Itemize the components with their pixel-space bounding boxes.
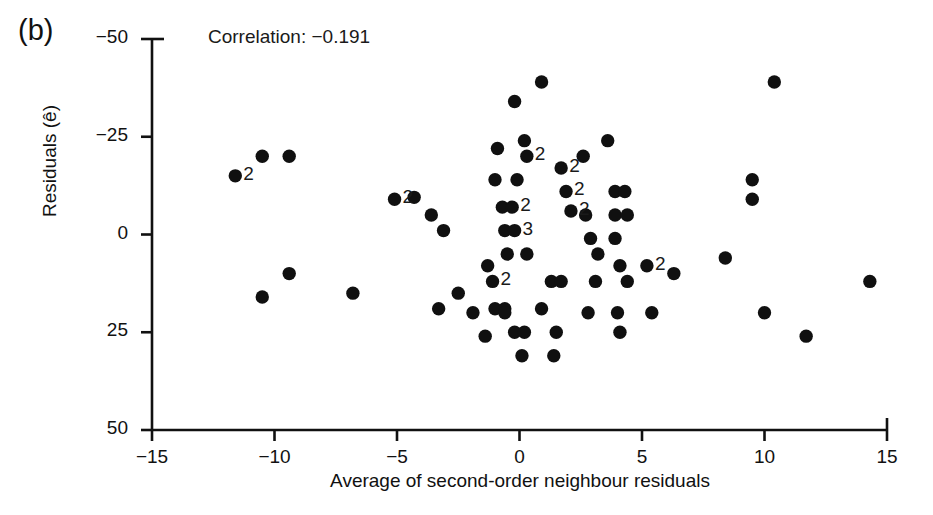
point-count-label: 2 xyxy=(535,143,546,165)
y-tick-label: −25 xyxy=(68,124,128,146)
y-tick-label: 25 xyxy=(68,319,128,341)
y-tick-label: 0 xyxy=(68,222,128,244)
data-point xyxy=(535,75,548,88)
point-count-label: 2 xyxy=(403,186,414,208)
data-point xyxy=(581,306,594,319)
data-point xyxy=(501,247,514,260)
data-point xyxy=(505,200,518,213)
data-points xyxy=(229,75,877,362)
data-point xyxy=(613,326,626,339)
data-point xyxy=(554,275,567,288)
x-tick-label: −15 xyxy=(122,446,182,468)
data-point xyxy=(618,185,631,198)
data-point xyxy=(640,259,653,272)
data-point xyxy=(601,134,614,147)
data-point xyxy=(498,306,511,319)
data-point xyxy=(486,275,499,288)
point-count-label: 2 xyxy=(501,268,512,290)
data-point xyxy=(621,275,634,288)
data-point xyxy=(564,204,577,217)
data-point xyxy=(799,329,812,342)
point-count-label: 2 xyxy=(655,253,666,275)
data-point xyxy=(613,259,626,272)
data-point xyxy=(515,349,528,362)
scatter-plot-figure: (b) Correlation: −0.191 Residuals (ê) Av… xyxy=(0,0,933,515)
data-point xyxy=(283,150,296,163)
data-point xyxy=(518,134,531,147)
data-point xyxy=(667,267,680,280)
data-point xyxy=(508,224,521,237)
data-point xyxy=(559,185,572,198)
x-tick-label: 5 xyxy=(612,446,672,468)
data-point xyxy=(611,306,624,319)
data-point xyxy=(863,275,876,288)
data-point xyxy=(256,290,269,303)
data-point xyxy=(432,302,445,315)
point-count-label: 2 xyxy=(520,194,531,216)
data-point xyxy=(508,95,521,108)
data-point xyxy=(535,302,548,315)
data-point xyxy=(584,232,597,245)
data-point xyxy=(479,329,492,342)
data-point xyxy=(256,150,269,163)
data-point xyxy=(481,259,494,272)
data-point xyxy=(229,169,242,182)
x-tick-label: −10 xyxy=(245,446,305,468)
data-point xyxy=(746,193,759,206)
data-point xyxy=(491,142,504,155)
data-point xyxy=(510,173,523,186)
data-point xyxy=(645,306,658,319)
data-point xyxy=(554,161,567,174)
data-point xyxy=(520,150,533,163)
x-tick-label: 0 xyxy=(490,446,550,468)
point-count-label: 2 xyxy=(569,155,580,177)
data-point xyxy=(452,286,465,299)
point-count-label: 3 xyxy=(523,218,534,240)
plot-canvas xyxy=(0,0,933,515)
data-point xyxy=(437,224,450,237)
x-tick-label: 10 xyxy=(735,446,795,468)
data-point xyxy=(589,275,602,288)
data-point xyxy=(547,349,560,362)
data-point xyxy=(520,247,533,260)
data-point xyxy=(518,326,531,339)
y-tick-label: −50 xyxy=(68,26,128,48)
data-point xyxy=(425,208,438,221)
point-count-label: 2 xyxy=(243,163,254,185)
data-point xyxy=(608,208,621,221)
data-point xyxy=(488,173,501,186)
data-point xyxy=(466,306,479,319)
data-point xyxy=(758,306,771,319)
data-point xyxy=(746,173,759,186)
data-point xyxy=(550,326,563,339)
y-tick-label: 50 xyxy=(68,417,128,439)
data-point xyxy=(283,267,296,280)
data-point xyxy=(591,247,604,260)
data-point xyxy=(621,208,634,221)
x-tick-label: −5 xyxy=(367,446,427,468)
data-point xyxy=(346,286,359,299)
data-point xyxy=(388,193,401,206)
data-point xyxy=(768,75,781,88)
x-tick-label: 15 xyxy=(857,446,917,468)
data-point xyxy=(719,251,732,264)
point-count-label: 2 xyxy=(579,198,590,220)
data-point xyxy=(608,232,621,245)
